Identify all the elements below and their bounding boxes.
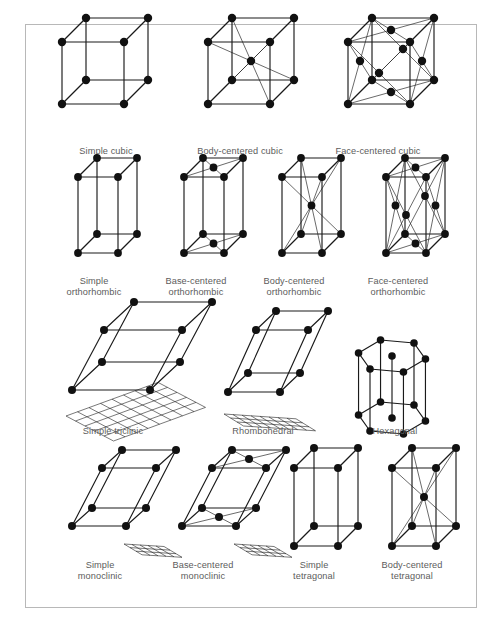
label-body-centered-orthorhombic: Body-centered orthorhombic [248, 276, 340, 299]
label-base-centered-monoclinic: Base-centered monoclinic [156, 560, 250, 583]
label-body-centered-tetragonal: Body-centered tetragonal [364, 560, 460, 583]
label-simple-tetragonal: Simple tetragonal [272, 560, 356, 583]
label-rhombohedral: Rhombohedral [208, 426, 318, 437]
bravais-lattice-figure: Simple cubicBody-centered cubicFace-cent… [0, 0, 503, 632]
lattice-grid: Simple cubicBody-centered cubicFace-cent… [0, 0, 503, 632]
label-simple-triclinic: Simple triclinic [58, 426, 168, 437]
label-face-centered-orthorhombic: Face-centered orthorhombic [352, 276, 444, 299]
label-simple-monoclinic: Simple monoclinic [58, 560, 142, 583]
label-base-centered-orthorhombic: Base-centered orthorhombic [150, 276, 242, 299]
lattice-face-centered-cubic [348, 42, 503, 162]
label-simple-orthorhombic: Simple orthorhombic [56, 276, 132, 299]
label-hexagonal: Hexagonal [340, 426, 450, 437]
